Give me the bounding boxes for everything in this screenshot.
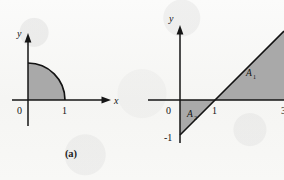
figure-panel-b: y 0 1 3 -1 A 1 A 2 (b) [142, 0, 284, 180]
x-axis-arrow-a [102, 97, 112, 104]
region-a1-letter: A [245, 68, 252, 78]
y-axis-label-b: y [168, 13, 174, 24]
y-axis-arrow-a [25, 33, 32, 43]
plot-b-svg: y 0 1 3 -1 A 1 A 2 [142, 0, 284, 152]
origin-label-a: 0 [17, 105, 22, 116]
y-axis-arrow-b [177, 25, 184, 35]
x-tick-1-label-b: 1 [212, 105, 217, 116]
figure-page: y x 0 1 (a) y 0 1 3 -1 [0, 0, 284, 180]
y-tick-neg1-label-b: -1 [164, 132, 172, 143]
region-a1-subscript: 1 [253, 74, 256, 80]
figure-panel-a: y x 0 1 (a) [0, 0, 142, 180]
origin-label-b: 0 [166, 105, 171, 116]
x-tick-3-label-b: 3 [281, 105, 284, 116]
region-a2-letter: A [186, 109, 193, 119]
caption-a: (a) [0, 148, 142, 159]
plot-a-svg: y x 0 1 [0, 0, 142, 148]
x-tick-1-label-a: 1 [62, 105, 67, 116]
y-axis-label-a: y [16, 28, 22, 39]
region-a2-subscript: 2 [194, 115, 197, 121]
x-axis-label-a: x [113, 95, 119, 106]
